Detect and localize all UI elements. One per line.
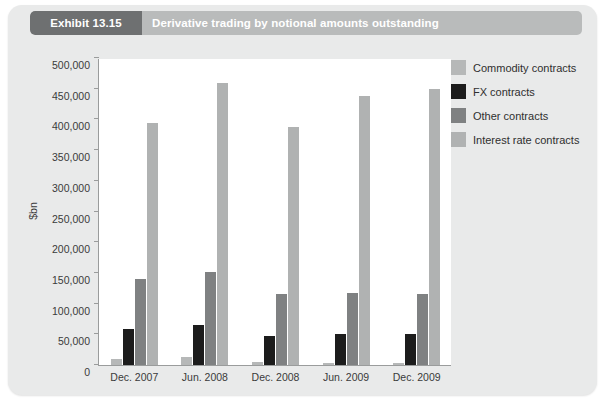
legend-swatch-other [451,108,466,123]
legend-swatch-interest-rate [451,132,466,147]
y-axis-tick [94,180,99,181]
x-axis-label: Dec. 2007 [99,366,170,383]
y-axis-tick [94,57,99,58]
x-axis-label: Dec. 2008 [240,366,311,383]
bar [123,329,134,365]
bar [359,96,370,365]
bar-group [181,59,228,365]
x-axis-label: Jun. 2008 [170,366,241,383]
legend-item-label: Other contracts [473,110,548,122]
y-axis-tick [94,149,99,150]
bar [252,362,263,365]
legend-swatch-fx [451,84,466,99]
bar [276,294,287,365]
chart-plot-area: 050,000100,000150,000200,000250,000300,0… [98,59,451,366]
bar [205,272,216,365]
y-axis-tick [94,241,99,242]
bar [393,363,404,365]
bar-group [252,59,299,365]
bar [147,123,158,365]
y-axis-tick [94,303,99,304]
y-axis-title: $bn [27,202,39,220]
bar-group [111,59,158,365]
legend-item: Commodity contracts [451,60,601,75]
bar [335,334,346,365]
chart-plot-wrapper: $bn 050,000100,000150,000200,000250,0003… [90,53,452,369]
legend-swatch-commodity [451,60,466,75]
bar [323,363,334,365]
exhibit-header: Exhibit 13.15 Derivative trading by noti… [30,11,582,35]
legend-item-label: Commodity contracts [473,62,576,74]
bar [135,279,146,365]
x-axis-label: Jun. 2009 [311,366,382,383]
legend-item: Interest rate contracts [451,132,601,147]
y-axis-tick [94,118,99,119]
bar [405,334,416,365]
bar [288,127,299,365]
legend-item-label: FX contracts [473,86,535,98]
bar [111,359,122,365]
exhibit-title: Derivative trading by notional amounts o… [152,11,439,35]
legend-item-label: Interest rate contracts [473,134,579,146]
bar [347,293,358,365]
bar [417,294,428,365]
exhibit-number-badge: Exhibit 13.15 [30,11,142,35]
exhibit-card: Exhibit 13.15 Derivative trading by noti… [8,5,597,395]
y-axis-tick [94,364,99,365]
bar [264,336,275,365]
bar [217,83,228,365]
bar [193,325,204,365]
y-axis-tick [94,88,99,89]
y-axis-tick [94,272,99,273]
x-axis-label: Dec. 2009 [381,366,452,383]
legend-item: FX contracts [451,84,601,99]
bar [429,89,440,365]
y-axis-tick [94,211,99,212]
legend-item: Other contracts [451,108,601,123]
y-axis-tick [94,333,99,334]
chart-legend: Commodity contractsFX contractsOther con… [451,60,601,156]
bar [181,357,192,365]
bar-group [323,59,370,365]
bar-group [393,59,440,365]
